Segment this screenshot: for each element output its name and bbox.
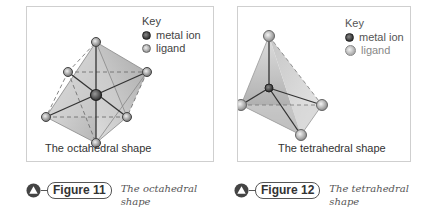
metal-ion-icon	[265, 84, 273, 92]
key-item-ligand: ligand	[345, 44, 404, 57]
ligand-icon	[345, 45, 356, 56]
tetrahedral-figure-panel: Key metal ion ligand The tetrahedral sha…	[237, 6, 411, 162]
key-item-ligand: ligand	[142, 42, 201, 55]
ligand-front-right-icon	[123, 113, 132, 122]
octahedral-figure-panel: Key metal ion ligand The octahedral shap…	[26, 6, 214, 162]
caption-text: The tetrahedral shape	[329, 182, 419, 208]
key-legend: Key metal ion ligand	[345, 17, 404, 57]
figure-caption: Figure 12 The tetrahedral shape	[234, 182, 419, 208]
key-label: ligand	[156, 42, 185, 55]
figure-badge: Figure 12	[234, 182, 320, 199]
key-item-metal-ion: metal ion	[345, 31, 404, 44]
metal-ion-icon	[142, 31, 151, 40]
ligand-back-right-icon	[143, 68, 152, 77]
triangle-badge-icon	[234, 183, 249, 198]
ligand-left-icon	[238, 100, 247, 111]
figure-number: Figure 11	[47, 182, 112, 199]
figure-caption: Figure 11 The octahedral shape	[26, 182, 211, 208]
figure-number: Figure 12	[255, 182, 320, 199]
key-label: metal ion	[156, 29, 201, 42]
key-label: ligand	[361, 44, 390, 57]
ligand-bottom-icon	[296, 130, 307, 141]
key-title: Key	[345, 17, 404, 30]
caption-text: The octahedral shape	[121, 182, 211, 208]
ligand-right-icon	[317, 100, 328, 111]
shape-label: The octahedral shape	[45, 142, 151, 154]
ligand-left-icon	[42, 113, 51, 122]
metal-ion-icon	[345, 33, 354, 42]
ligand-icon	[142, 44, 151, 53]
triangle-badge-icon	[26, 183, 41, 198]
ligand-top-icon	[264, 31, 275, 42]
shape-label: The tetrahedral shape	[278, 142, 386, 154]
key-item-metal-ion: metal ion	[142, 29, 201, 42]
key-legend: Key metal ion ligand	[142, 15, 201, 55]
key-title: Key	[142, 15, 201, 28]
figure-badge: Figure 11	[26, 182, 112, 199]
metal-ion-icon	[91, 90, 102, 101]
ligand-top-icon	[92, 38, 101, 47]
key-label: metal ion	[359, 31, 404, 44]
ligand-back-left-icon	[64, 68, 73, 77]
